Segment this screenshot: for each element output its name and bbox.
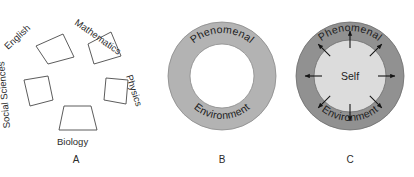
- subject-label-biology: Biology: [57, 136, 88, 147]
- panel-caption-c: C: [346, 154, 353, 165]
- panel-caption-a: A: [73, 154, 80, 165]
- annulus-hole-b: [190, 44, 254, 108]
- three-panel-diagram: English Mathematics Physics Biology Soci…: [0, 0, 414, 177]
- self-label-c: Self: [341, 70, 359, 82]
- panel-caption-b: B: [219, 154, 226, 165]
